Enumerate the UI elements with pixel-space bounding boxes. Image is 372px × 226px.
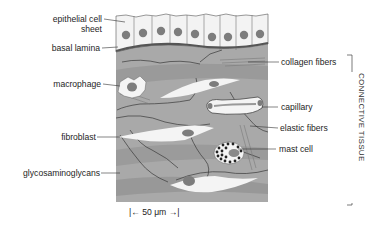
label-collagen-fibers: collagen fibers [281, 57, 336, 67]
label-mast-cell: mast cell [279, 144, 313, 154]
label-line: sheet [20, 24, 102, 34]
fibroblast-nucleus [182, 130, 194, 137]
mast-cell [214, 142, 244, 164]
capillary-vessel [207, 97, 263, 114]
label-line: epithelial cell [20, 14, 102, 24]
label-macrophage: macrophage [10, 79, 101, 89]
label-fibroblast: fibroblast [10, 132, 96, 142]
fibroblast-nucleus [183, 176, 195, 186]
label-basal-lamina: basal lamina [10, 43, 100, 53]
connective-tissue-bracket [347, 55, 352, 205]
fibroblast-nucleus [209, 81, 219, 87]
label-capillary: capillary [281, 102, 313, 112]
label-connective-tissue: CONNECTIVE TISSUE [356, 73, 366, 203]
label-elastic-fibers: elastic fibers [280, 123, 328, 133]
scale-bar: |← 50 μm →| [129, 207, 179, 217]
label-epithelial-cell-sheet: epithelial cell sheet [20, 14, 102, 34]
label-glycosaminoglycans: glycosaminoglycans [2, 168, 100, 178]
